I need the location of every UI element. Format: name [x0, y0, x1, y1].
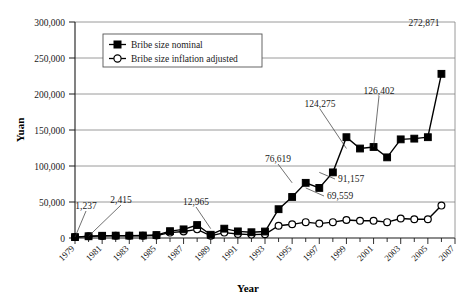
data-point-marker-circle: [370, 217, 377, 224]
data-point-marker-circle: [411, 216, 418, 223]
y-tick-label: 0: [60, 234, 65, 244]
x-axis-title: Year: [237, 282, 259, 294]
data-point-marker-square: [384, 154, 391, 161]
data-point-marker-square: [248, 229, 255, 236]
data-point-marker-circle: [424, 216, 431, 223]
data-point-marker-circle: [289, 221, 296, 228]
data-label: 1,237: [75, 201, 97, 211]
data-point-marker-circle: [343, 217, 350, 224]
data-point-marker-square: [275, 206, 282, 213]
data-point-marker-square: [411, 135, 418, 142]
data-label: 76,619: [265, 154, 291, 164]
data-label: 126,402: [364, 86, 395, 96]
data-point-marker-circle: [438, 202, 445, 209]
filled-square-icon: [114, 41, 121, 48]
data-point-marker-square: [221, 225, 228, 232]
data-label: 272,871: [409, 18, 440, 28]
chart-figure: 300,000 250,000 200,000 150,000 100,000 …: [0, 0, 471, 303]
data-point-marker-square: [126, 232, 133, 239]
open-circle-icon: [114, 55, 121, 62]
data-point-marker-square: [112, 232, 119, 239]
data-point-marker-square: [438, 70, 445, 77]
data-point-marker-square: [424, 134, 431, 141]
data-point-marker-circle: [302, 219, 309, 226]
data-point-marker-square: [180, 226, 187, 233]
y-tick-label: 100,000: [34, 162, 65, 172]
y-axis-title: Yuan: [14, 118, 26, 143]
data-point-marker-square: [302, 179, 309, 186]
data-point-marker-circle: [397, 215, 404, 222]
data-point-marker-circle: [316, 220, 323, 227]
legend-label: Bribe size inflation adjusted: [131, 54, 238, 64]
data-point-marker-square: [153, 232, 160, 239]
data-point-marker-circle: [275, 222, 282, 229]
y-tick-label: 200,000: [34, 90, 65, 100]
data-point-marker-square: [316, 185, 323, 192]
y-tick-label: 150,000: [34, 126, 65, 136]
data-label: 12,965: [183, 197, 209, 207]
legend-label: Bribe size nominal: [131, 40, 203, 50]
data-label: 124,275: [305, 99, 336, 109]
data-label: 2,415: [110, 195, 132, 205]
data-point-marker-square: [329, 169, 336, 176]
data-point-marker-circle: [329, 219, 336, 226]
data-point-marker-square: [262, 228, 269, 235]
data-point-marker-circle: [384, 219, 391, 226]
data-point-marker-circle: [357, 217, 364, 224]
y-tick-label: 300,000: [34, 18, 65, 28]
y-tick-label: 250,000: [34, 54, 65, 64]
data-point-marker-square: [397, 136, 404, 143]
y-tick-label: 50,000: [39, 198, 65, 208]
data-point-marker-square: [234, 228, 241, 235]
data-point-marker-square: [99, 232, 106, 239]
data-point-marker-square: [207, 231, 214, 238]
data-point-marker-square: [139, 232, 146, 239]
chart-svg: 300,000 250,000 200,000 150,000 100,000 …: [0, 0, 471, 303]
data-point-marker-square: [343, 134, 350, 141]
data-label: 91,157: [338, 174, 364, 184]
chart-legend: Bribe size nominal Bribe size inflation …: [103, 34, 262, 67]
data-point-marker-square: [167, 228, 174, 235]
data-point-marker-square: [194, 222, 201, 229]
data-point-marker-square: [72, 234, 79, 241]
data-point-marker-square: [289, 194, 296, 201]
data-point-marker-square: [357, 145, 364, 152]
data-label: 69,559: [327, 191, 353, 201]
